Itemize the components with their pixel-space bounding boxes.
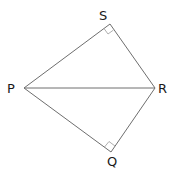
segment-rq [111, 88, 155, 152]
segment-sr [110, 24, 155, 88]
right-angle-mark-q [105, 142, 116, 148]
vertex-label-p: P [7, 81, 15, 96]
vertex-label-s: S [99, 8, 107, 23]
segment-qp [24, 88, 111, 152]
vertex-label-q: Q [107, 154, 117, 169]
geometry-diagram: S P R Q [0, 0, 174, 173]
vertex-label-r: R [158, 81, 167, 96]
right-angle-mark-s [104, 29, 114, 35]
segment-ps [24, 24, 110, 88]
